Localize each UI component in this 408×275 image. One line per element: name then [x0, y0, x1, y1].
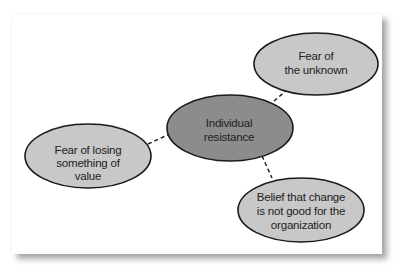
node-label-line: Fear of [298, 50, 334, 62]
node-label-line: Fear of losing [55, 144, 122, 156]
node-individual-resistance: Individual resistance [167, 95, 293, 161]
node-label-line: is not good for the [257, 205, 345, 217]
node-label-line: resistance [204, 131, 254, 143]
node-fear-losing-value: Fear of losing something of value [25, 124, 151, 188]
node-fear-unknown: Fear of the unknown [254, 33, 378, 95]
node-label-line: organization [271, 219, 331, 231]
connector-to-belief [262, 156, 272, 178]
node-label-line: the unknown [284, 64, 347, 76]
resistance-diagram: Fear of the unknown Individual resistanc… [0, 0, 408, 275]
node-belief-change-not-good: Belief that change is not good for the o… [238, 178, 364, 242]
node-label-line: value [75, 170, 102, 182]
node-label-line: Belief that change [257, 191, 345, 203]
node-label-line: something of [56, 157, 120, 169]
node-label-line: Individual [206, 117, 253, 129]
